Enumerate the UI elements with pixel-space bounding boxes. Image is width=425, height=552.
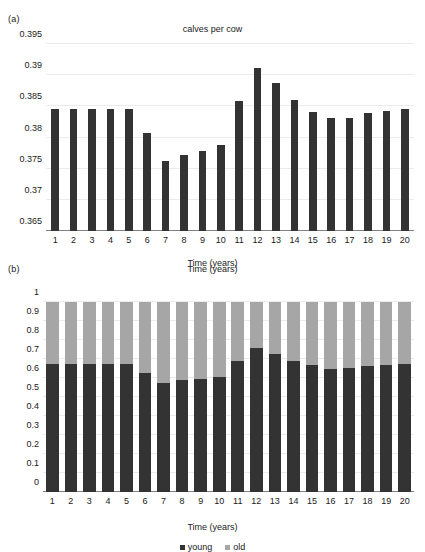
legend-item-old[interactable]: old xyxy=(225,542,245,552)
y-axis-tick-label: 0.3 xyxy=(26,420,39,430)
gridline xyxy=(43,396,414,397)
bar-segment-young xyxy=(380,365,393,492)
y-axis-tick-label: 0.38 xyxy=(24,123,42,133)
bar-segment-young xyxy=(324,369,337,493)
panel-a-plot-area: 0.3650.370.3750.380.3850.390.395 1234567… xyxy=(46,44,414,231)
bar-segment-old xyxy=(380,302,393,365)
bar-segment-young xyxy=(287,361,300,492)
y-axis-tick-label: 0.6 xyxy=(26,363,39,373)
gridline xyxy=(43,301,414,302)
bar-segment-old xyxy=(194,302,207,379)
gridline xyxy=(43,358,414,359)
gridline xyxy=(43,453,414,454)
legend-label: old xyxy=(233,542,245,552)
x-axis-tick-label: 13 xyxy=(271,235,281,245)
x-axis-tick-label: 20 xyxy=(400,496,410,506)
bar xyxy=(51,109,59,231)
stacked-bar xyxy=(287,302,300,492)
bar-segment-old xyxy=(287,302,300,361)
bar xyxy=(235,101,243,231)
stacked-bar xyxy=(65,302,78,492)
bar-segment-old xyxy=(176,302,189,380)
bar xyxy=(401,109,409,231)
y-axis-tick-label: 0.5 xyxy=(26,382,39,392)
bar-segment-old xyxy=(102,302,115,364)
stacked-bar xyxy=(306,302,319,492)
bar-segment-old xyxy=(306,302,319,365)
panel-b: (b) Time (years) 00.10.20.30.40.50.60.70… xyxy=(0,262,425,549)
y-axis-tick-label: 0.365 xyxy=(19,216,42,226)
x-axis-tick-label: 13 xyxy=(270,496,280,506)
bar-segment-young xyxy=(83,364,96,492)
x-axis-tick-label: 1 xyxy=(53,235,58,245)
bar-segment-old xyxy=(46,302,59,364)
stacked-bar xyxy=(269,302,282,492)
x-axis-tick-label: 19 xyxy=(381,496,391,506)
y-axis-tick-label: 0.395 xyxy=(19,29,42,39)
y-axis-tick-label: 0.9 xyxy=(26,306,39,316)
bar xyxy=(107,109,115,231)
gridline xyxy=(43,491,414,492)
gridline xyxy=(43,472,414,473)
gridline xyxy=(46,43,414,44)
y-axis-tick-label: 0.8 xyxy=(26,325,39,335)
bar-segment-young xyxy=(194,379,207,492)
bar xyxy=(70,109,78,231)
x-axis-tick-label: 20 xyxy=(400,235,410,245)
x-axis-tick-label: 1 xyxy=(50,496,55,506)
bar-segment-old xyxy=(361,302,374,366)
panel-b-legend: youngold xyxy=(0,542,425,552)
panel-b-x-axis-label: Time (years) xyxy=(0,522,425,532)
bar xyxy=(143,133,151,231)
bar-segment-young xyxy=(250,348,263,492)
x-axis-tick-label: 17 xyxy=(344,496,354,506)
x-axis-tick-label: 15 xyxy=(308,235,318,245)
bar-segment-young xyxy=(176,380,189,492)
stacked-bar xyxy=(324,302,337,492)
y-axis-tick-label: 0.37 xyxy=(24,185,42,195)
x-axis-tick-label: 5 xyxy=(126,235,131,245)
x-axis-tick-label: 18 xyxy=(363,235,373,245)
stacked-bar xyxy=(176,302,189,492)
bar-segment-young xyxy=(213,377,226,492)
bar-segment-young xyxy=(65,364,78,492)
bar-segment-young xyxy=(102,364,115,492)
stacked-bar xyxy=(231,302,244,492)
bar-segment-old xyxy=(231,302,244,361)
panel-b-plot-area: 00.10.20.30.40.50.60.70.80.91 1234567891… xyxy=(43,302,414,492)
stacked-bar xyxy=(139,302,152,492)
bar-segment-young xyxy=(139,373,152,492)
x-axis-tick-label: 3 xyxy=(87,496,92,506)
bar xyxy=(254,68,262,231)
gridline xyxy=(46,230,414,231)
gridline xyxy=(43,320,414,321)
x-axis-tick-label: 4 xyxy=(105,496,110,506)
bar-segment-old xyxy=(65,302,78,364)
x-axis-tick-label: 15 xyxy=(307,496,317,506)
bar xyxy=(162,161,170,231)
x-axis-tick-label: 8 xyxy=(180,496,185,506)
bar-segment-old xyxy=(139,302,152,373)
y-axis-tick-label: 0.39 xyxy=(24,60,42,70)
x-axis-tick-label: 2 xyxy=(68,496,73,506)
bar-segment-old xyxy=(120,302,133,364)
x-axis-tick-label: 11 xyxy=(235,235,244,245)
x-axis-tick-label: 10 xyxy=(214,496,224,506)
panel-b-title: Time (years) xyxy=(0,264,425,274)
bar-segment-young xyxy=(361,366,374,492)
bar xyxy=(180,155,188,231)
bar-segment-young xyxy=(398,364,411,492)
x-axis-tick-label: 17 xyxy=(345,235,355,245)
gridline xyxy=(46,137,414,138)
x-axis-tick-label: 2 xyxy=(71,235,76,245)
gridline xyxy=(46,74,414,75)
bar xyxy=(199,151,207,231)
legend-swatch-icon xyxy=(180,545,185,550)
bar xyxy=(88,109,96,231)
stacked-bar xyxy=(380,302,393,492)
legend-item-young[interactable]: young xyxy=(180,542,213,552)
x-axis-tick-label: 12 xyxy=(253,235,263,245)
y-axis-tick-label: 0.2 xyxy=(26,439,39,449)
bar-segment-old xyxy=(157,302,170,383)
x-axis-tick-label: 7 xyxy=(161,496,166,506)
